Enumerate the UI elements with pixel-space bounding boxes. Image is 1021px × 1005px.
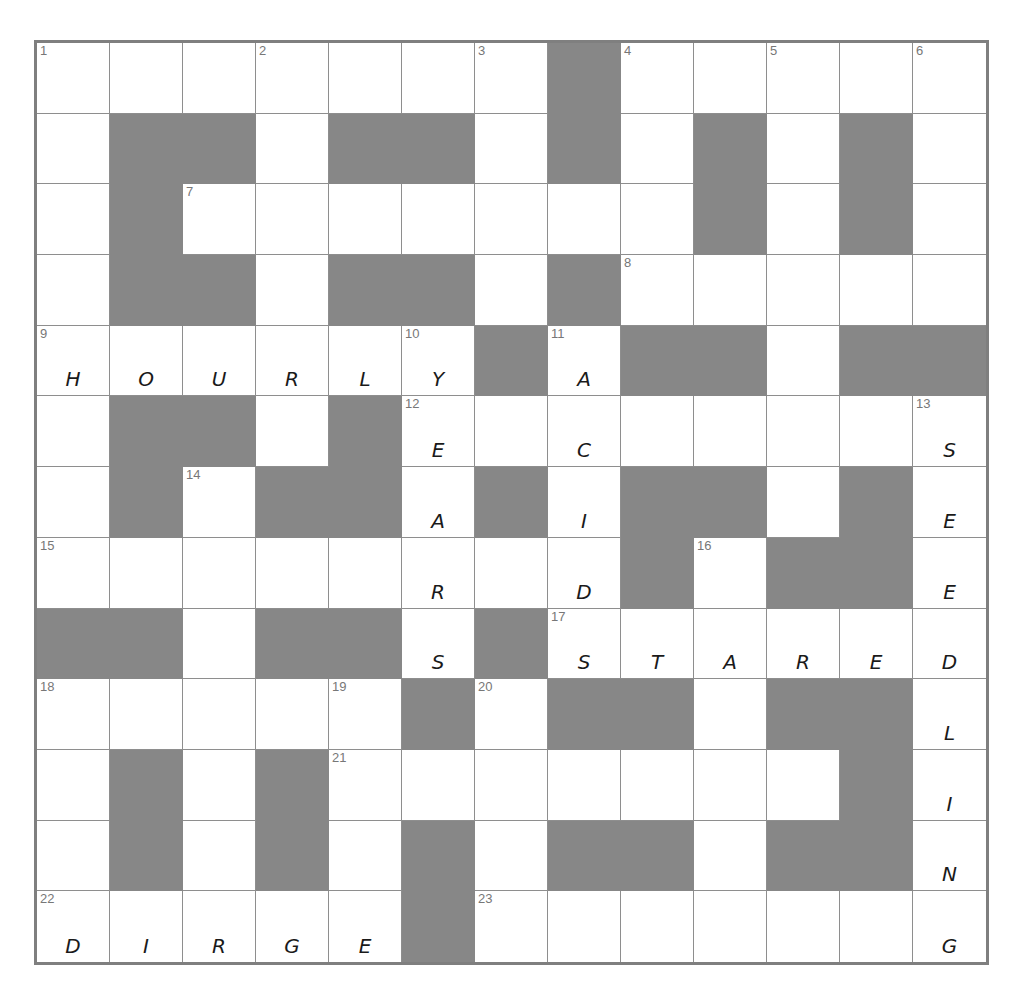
grid-cell[interactable] (402, 184, 475, 255)
grid-cell[interactable]: 4 (621, 43, 694, 114)
grid-cell[interactable] (694, 255, 767, 326)
grid-cell[interactable]: R (256, 326, 329, 397)
grid-cell[interactable] (767, 114, 840, 185)
grid-cell[interactable]: 7 (183, 184, 256, 255)
grid-cell[interactable]: 10Y (402, 326, 475, 397)
grid-cell[interactable] (475, 396, 548, 467)
grid-cell[interactable]: O (110, 326, 183, 397)
grid-cell[interactable]: R (402, 538, 475, 609)
grid-cell[interactable]: T (621, 609, 694, 680)
grid-cell[interactable]: 21 (329, 750, 402, 821)
grid-cell[interactable]: 1 (37, 43, 110, 114)
grid-cell[interactable]: 9H (37, 326, 110, 397)
grid-cell[interactable] (256, 679, 329, 750)
grid-cell[interactable] (694, 891, 767, 962)
grid-cell[interactable]: E (840, 609, 913, 680)
grid-cell[interactable] (329, 184, 402, 255)
grid-cell[interactable]: 17S (548, 609, 621, 680)
grid-cell[interactable] (37, 750, 110, 821)
grid-cell[interactable] (694, 396, 767, 467)
grid-cell[interactable] (475, 255, 548, 326)
grid-cell[interactable]: 15 (37, 538, 110, 609)
grid-cell[interactable] (694, 679, 767, 750)
grid-cell[interactable] (110, 43, 183, 114)
grid-cell[interactable] (256, 114, 329, 185)
grid-cell[interactable] (767, 396, 840, 467)
grid-cell[interactable] (913, 255, 986, 326)
grid-cell[interactable]: 2 (256, 43, 329, 114)
grid-cell[interactable] (840, 255, 913, 326)
grid-cell[interactable]: 6 (913, 43, 986, 114)
grid-cell[interactable]: I (548, 467, 621, 538)
grid-cell[interactable] (329, 821, 402, 892)
grid-cell[interactable] (183, 43, 256, 114)
grid-cell[interactable] (475, 750, 548, 821)
grid-cell[interactable] (548, 750, 621, 821)
grid-cell[interactable]: 16 (694, 538, 767, 609)
grid-cell[interactable] (183, 609, 256, 680)
grid-cell[interactable] (694, 750, 767, 821)
grid-cell[interactable] (475, 538, 548, 609)
grid-cell[interactable]: 18 (37, 679, 110, 750)
grid-cell[interactable] (767, 184, 840, 255)
grid-cell[interactable] (767, 326, 840, 397)
grid-cell[interactable] (621, 891, 694, 962)
grid-cell[interactable] (767, 467, 840, 538)
grid-cell[interactable]: I (913, 750, 986, 821)
grid-cell[interactable] (183, 821, 256, 892)
grid-cell[interactable] (767, 750, 840, 821)
grid-cell[interactable]: 8 (621, 255, 694, 326)
grid-cell[interactable] (37, 467, 110, 538)
grid-cell[interactable]: 3 (475, 43, 548, 114)
grid-cell[interactable]: R (767, 609, 840, 680)
grid-cell[interactable] (37, 114, 110, 185)
grid-cell[interactable]: A (694, 609, 767, 680)
grid-cell[interactable]: E (913, 467, 986, 538)
grid-cell[interactable]: L (913, 679, 986, 750)
grid-cell[interactable] (475, 114, 548, 185)
grid-cell[interactable] (256, 255, 329, 326)
grid-cell[interactable]: A (402, 467, 475, 538)
grid-cell[interactable] (767, 891, 840, 962)
grid-cell[interactable]: L (329, 326, 402, 397)
grid-cell[interactable] (621, 750, 694, 821)
grid-cell[interactable]: D (913, 609, 986, 680)
grid-cell[interactable]: S (402, 609, 475, 680)
grid-cell[interactable]: E (329, 891, 402, 962)
grid-cell[interactable] (256, 538, 329, 609)
grid-cell[interactable] (110, 538, 183, 609)
grid-cell[interactable] (621, 184, 694, 255)
grid-cell[interactable]: R (183, 891, 256, 962)
grid-cell[interactable] (37, 184, 110, 255)
grid-cell[interactable]: N (913, 821, 986, 892)
grid-cell[interactable] (840, 396, 913, 467)
grid-cell[interactable]: 14 (183, 467, 256, 538)
grid-cell[interactable] (548, 891, 621, 962)
grid-cell[interactable]: 11A (548, 326, 621, 397)
grid-cell[interactable]: 13S (913, 396, 986, 467)
grid-cell[interactable]: C (548, 396, 621, 467)
grid-cell[interactable]: 19 (329, 679, 402, 750)
grid-cell[interactable]: 5 (767, 43, 840, 114)
grid-cell[interactable] (475, 821, 548, 892)
grid-cell[interactable] (37, 821, 110, 892)
grid-cell[interactable]: U (183, 326, 256, 397)
grid-cell[interactable] (621, 396, 694, 467)
grid-cell[interactable] (402, 43, 475, 114)
grid-cell[interactable]: G (913, 891, 986, 962)
grid-cell[interactable] (110, 679, 183, 750)
grid-cell[interactable]: 12E (402, 396, 475, 467)
grid-cell[interactable]: D (548, 538, 621, 609)
grid-cell[interactable] (913, 114, 986, 185)
grid-cell[interactable] (329, 538, 402, 609)
grid-cell[interactable]: 20 (475, 679, 548, 750)
grid-cell[interactable] (183, 679, 256, 750)
grid-cell[interactable] (329, 43, 402, 114)
grid-cell[interactable]: G (256, 891, 329, 962)
grid-cell[interactable] (694, 43, 767, 114)
grid-cell[interactable] (37, 396, 110, 467)
grid-cell[interactable]: I (110, 891, 183, 962)
grid-cell[interactable] (621, 114, 694, 185)
grid-cell[interactable]: E (913, 538, 986, 609)
grid-cell[interactable] (256, 396, 329, 467)
